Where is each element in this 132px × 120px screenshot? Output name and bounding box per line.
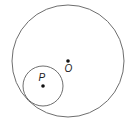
circle-diagram: O P: [0, 0, 132, 120]
point-p: [41, 84, 45, 88]
label-o: O: [65, 63, 73, 74]
label-p: P: [39, 72, 46, 83]
